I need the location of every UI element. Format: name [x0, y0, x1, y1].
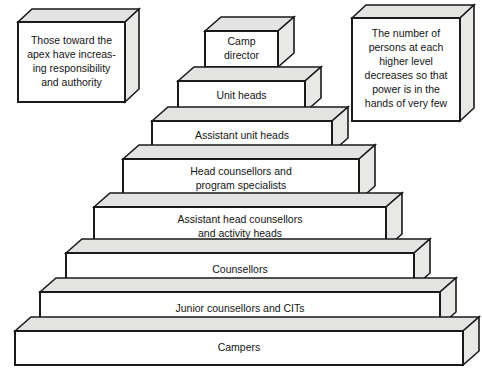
pyramid-tier-5-label-line: and activity heads — [198, 227, 282, 239]
right-callout-label-line: decreases so that — [365, 69, 448, 81]
pyramid-tier-5-label-line: Assistant head counsellors — [178, 213, 303, 225]
right-callout-label-line: The number of — [372, 27, 440, 39]
pyramid-tier-1-label-line: director — [224, 49, 260, 61]
pyramid-tier-2-label-line: Unit heads — [216, 89, 266, 101]
pyramid-tier-2-top-face — [178, 67, 321, 81]
pyramid-tier-4-top-face — [123, 145, 375, 159]
pyramid-tier-1-label-line: Camp — [227, 35, 255, 47]
left-callout: Those toward theapex have increas-ing re… — [18, 9, 139, 102]
left-callout-label-line: ing responsibility — [33, 62, 111, 74]
pyramid-tier-7-top-face — [40, 278, 456, 292]
pyramid-tier-4-label-line: Head counsellors and — [190, 165, 292, 177]
right-callout-top-face — [352, 5, 474, 18]
left-callout-label-line: Those toward the — [31, 34, 112, 46]
pyramid-tier-3-label-line: Assistant unit heads — [195, 129, 289, 141]
pyramid-tier-1: Campdirector — [205, 17, 294, 67]
pyramid-tier-6-label-line: Counsellors — [212, 263, 267, 275]
left-callout-label-line: apex have increas- — [27, 48, 116, 60]
right-callout-label-line: persons at each — [369, 41, 444, 53]
right-callout-label-line: power is in the — [372, 83, 440, 95]
pyramid-tier-3-top-face — [152, 107, 348, 121]
right-callout-side-face — [460, 5, 474, 121]
left-callout-side-face — [125, 9, 139, 102]
pyramid-tier-4-label-line: program specialists — [196, 179, 286, 191]
pyramid-svg: CampdirectorUnit headsAssistant unit hea… — [0, 0, 482, 377]
right-callout-label-line: hands of very few — [365, 97, 448, 109]
pyramid-tier-7-label-line: Junior counsellors and CITs — [176, 302, 305, 314]
pyramid-tier-5-top-face — [94, 193, 402, 207]
left-callout-label-line: and authority — [41, 76, 102, 88]
pyramid-tier-4: Head counsellors andprogram specialists — [123, 145, 375, 200]
right-callout-label-line: higher level — [379, 55, 433, 67]
pyramid-tier-8-label-line: Campers — [218, 341, 261, 353]
pyramid-tier-6-top-face — [66, 239, 430, 253]
left-callout-top-face — [18, 9, 139, 22]
pyramid-tier-8-top-face — [15, 317, 479, 331]
right-callout: The number ofpersons at eachhigher level… — [352, 5, 474, 121]
pyramid-tier-8: Campers — [15, 317, 479, 365]
pyramid-tier-2: Unit heads — [178, 67, 321, 112]
hierarchy-diagram: CampdirectorUnit headsAssistant unit hea… — [0, 0, 482, 377]
